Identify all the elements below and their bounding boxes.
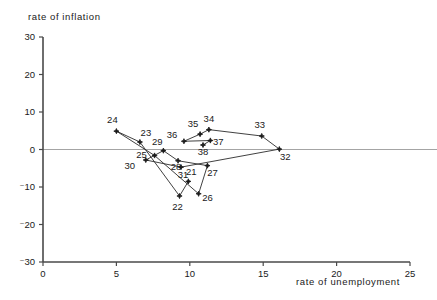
x-tick-label: 0 [40,268,45,279]
point-label: 32 [280,151,291,162]
y-tick-label: 10 [24,106,35,117]
point-label: 33 [254,119,265,130]
point-label: 27 [207,167,218,178]
point-label: 23 [141,127,152,138]
point-label: 25 [136,149,147,160]
data-point [161,148,166,153]
phillips-curve-chart: 3020100⁻10⁻20⁻300510152025 2122232425262… [0,0,437,300]
x-axis-title: rate of unemployment [296,276,400,287]
x-tick-label: 5 [114,268,119,279]
y-tick-label: 30 [24,31,35,42]
trajectory-path [116,130,279,196]
point-label: 29 [152,136,163,147]
point-label: 38 [198,146,209,157]
y-tick-label: ⁻30 [19,256,35,267]
axis-ticks [39,37,410,266]
series-polyline [116,130,279,196]
point-label: 37 [213,136,224,147]
data-point [197,132,202,137]
point-label: 36 [167,129,178,140]
data-point [114,129,119,134]
star-marker [161,148,166,153]
point-label: 34 [204,113,215,124]
star-marker [206,127,211,132]
point-label: 35 [188,118,199,129]
point-label: 22 [172,201,183,212]
data-point [181,139,186,144]
point-label: 26 [202,192,213,203]
point-label: 31 [178,169,189,180]
x-tick-label: 15 [258,268,269,279]
chart-container: 3020100⁻10⁻20⁻300510152025 2122232425262… [0,0,437,300]
axis-tick-labels: 3020100⁻10⁻20⁻300510152025 [19,31,415,279]
data-point-markers [114,127,282,199]
x-tick-label: 10 [185,268,196,279]
y-tick-label: ⁻10 [19,181,35,192]
star-marker [197,132,202,137]
y-tick-label: 20 [24,69,35,80]
x-tick-label: 25 [405,268,416,279]
star-marker [114,129,119,134]
y-axis-title: rate of inflation [28,11,101,22]
y-tick-label: ⁻20 [19,219,35,230]
star-marker [181,139,186,144]
point-label: 24 [107,114,118,125]
data-point [206,127,211,132]
point-label: 30 [124,160,135,171]
data-point-labels: 212223242526272829303132333435363738 [107,113,291,212]
y-tick-label: 0 [30,144,35,155]
